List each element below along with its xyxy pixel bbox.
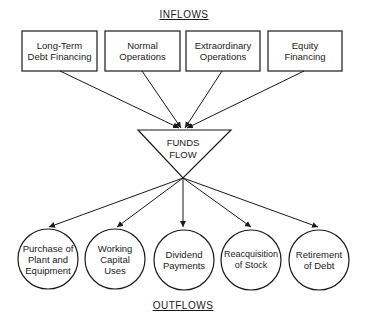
outflow-label-3: DividendPayments — [154, 230, 214, 290]
arrow-outflow-5 — [183, 178, 318, 227]
outflow-label-5: Retirementof Debt — [289, 230, 349, 290]
arrow-outflow-2 — [117, 178, 183, 227]
outflow-label-4: Reacquisitionof Stock — [219, 230, 283, 290]
outflow-label-2: WorkingCapitalUses — [85, 229, 145, 289]
inflow-label-3: ExtraordinaryOperations — [186, 31, 260, 71]
arrow-inflow-4 — [187, 71, 304, 128]
inflow-label-4: EquityFinancing — [268, 31, 342, 71]
outflows-heading: OUTFLOWS — [150, 300, 216, 311]
outflow-label-1: Purchase ofPlant andEquipment — [18, 229, 78, 289]
inflows-heading: INFLOWS — [154, 9, 214, 20]
inflow-label-1: Long-TermDebt Financing — [22, 31, 97, 71]
inflow-label-2: NormalOperations — [105, 31, 180, 71]
arrow-outflow-4 — [183, 178, 251, 227]
arrow-outflow-1 — [49, 178, 183, 227]
funds-flow-label: FUNDS FLOW — [153, 137, 213, 161]
